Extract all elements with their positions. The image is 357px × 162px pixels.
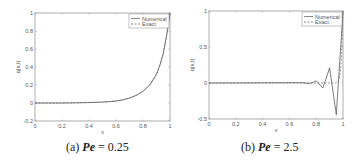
legend-label-exact: Exact [142, 21, 156, 27]
x-tick-label: 0.4 [259, 121, 267, 127]
x-tick-label: 0.8 [139, 123, 147, 129]
caption-b: (b) Pe = 2.5 [241, 140, 298, 155]
y-tick-label: 0.8 [25, 28, 33, 34]
x-axis-label: x [275, 127, 278, 133]
caption-b-value: = 2.5 [274, 140, 299, 154]
legend: NumericalExact [129, 14, 169, 28]
x-tick-label: 1 [341, 121, 344, 127]
y-axis-label: q(x,t) [189, 59, 195, 72]
caption-a-prefix: (a) [66, 140, 79, 154]
x-tick-label: 0 [207, 121, 210, 127]
y-tick-label: 0.4 [25, 64, 33, 70]
x-tick-label: 1 [168, 123, 171, 129]
caption-a: (a) Pe = 0.25 [66, 140, 129, 155]
x-tick-label: 0.6 [112, 123, 120, 129]
y-tick-label: 0.2 [25, 82, 33, 88]
legend: NumericalExact [302, 12, 342, 26]
caption-b-var: Pe [258, 140, 271, 154]
x-tick-label: 0.6 [286, 121, 294, 127]
y-tick-label: 0 [30, 100, 33, 106]
x-tick-label: 0.2 [58, 123, 66, 129]
axes-box [209, 11, 343, 119]
chart-panel-a: 00.20.40.60.81-0.200.20.40.60.81xq(x,t)N… [15, 10, 172, 135]
x-axis-label: x [101, 129, 104, 135]
y-tick-label: 1 [30, 10, 33, 16]
caption-a-value: = 0.25 [98, 140, 129, 154]
y-tick-label: -0.2 [24, 118, 33, 124]
y-tick-label: 0.5 [199, 44, 207, 50]
legend-label-exact: Exact [315, 19, 329, 25]
caption-a-var: Pe [82, 140, 95, 154]
axes-box [35, 13, 170, 121]
caption-b-prefix: (b) [241, 140, 255, 154]
y-tick-label: 0 [204, 80, 207, 86]
x-tick-label: 0.2 [232, 121, 240, 127]
y-tick-label: 0.6 [25, 46, 33, 52]
x-tick-label: 0.4 [85, 123, 93, 129]
y-tick-label: -0.5 [198, 116, 207, 122]
figure: 00.20.40.60.81-0.200.20.40.60.81xq(x,t)N… [0, 0, 357, 162]
x-tick-label: 0 [33, 123, 36, 129]
y-axis-label: q(x,t) [15, 61, 21, 74]
y-tick-label: 1 [204, 8, 207, 14]
series-numerical [209, 11, 343, 115]
chart-panel-b: 00.20.40.60.81-0.500.51xq(x,t)NumericalE… [189, 8, 345, 133]
x-tick-label: 0.8 [312, 121, 320, 127]
